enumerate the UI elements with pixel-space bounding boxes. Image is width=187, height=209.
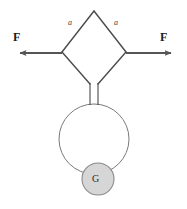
figure-container: F F a a G (0, 0, 187, 209)
linkage-bar-bottom-right (98, 52, 126, 84)
side-length-label-left: a (68, 19, 72, 27)
side-length-label-right: a (114, 19, 118, 27)
linkage-bar-top-left (62, 11, 94, 52)
force-label-right: F (160, 31, 168, 43)
linkage-bar-bottom-left (62, 52, 90, 84)
weight-label: G (92, 174, 99, 184)
force-label-left: F (13, 31, 21, 43)
linkage-bar-top-right (94, 11, 126, 52)
